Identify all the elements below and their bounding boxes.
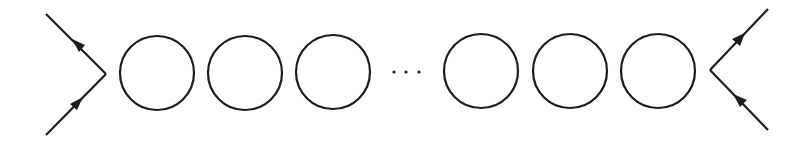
left-vertex [46, 14, 106, 135]
right-vertex [710, 9, 768, 130]
bubble-chain [120, 34, 695, 110]
ellipsis [392, 70, 420, 73]
bubble-loop-4 [444, 34, 518, 108]
ellipsis-dot-1 [392, 70, 395, 73]
bubble-chain-diagram [0, 0, 809, 142]
bubble-loop-5 [533, 34, 607, 108]
ellipsis-dot-2 [404, 70, 407, 73]
bubble-loop-1 [120, 36, 194, 110]
ellipsis-dot-3 [417, 70, 420, 73]
bubble-loop-2 [208, 36, 282, 110]
bubble-loop-6 [621, 34, 695, 108]
bubble-loop-3 [296, 35, 370, 109]
